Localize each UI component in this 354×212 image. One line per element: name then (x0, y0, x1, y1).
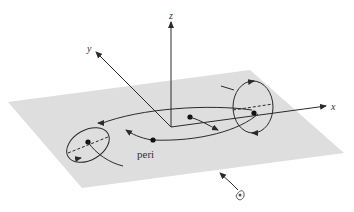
right-guiding-center (251, 110, 256, 115)
eye-icon (236, 191, 244, 200)
orbit-diagram: z y x peri (0, 0, 354, 212)
body-peri (150, 137, 155, 142)
peri-label: peri (137, 148, 154, 160)
reference-plane (8, 70, 344, 188)
x-axis-label: x (330, 101, 336, 112)
line-of-sight-shaft (232, 184, 238, 190)
line-of-sight-arrow (220, 173, 232, 184)
z-axis-label: z (168, 10, 173, 21)
y-axis-label: y (86, 43, 92, 54)
